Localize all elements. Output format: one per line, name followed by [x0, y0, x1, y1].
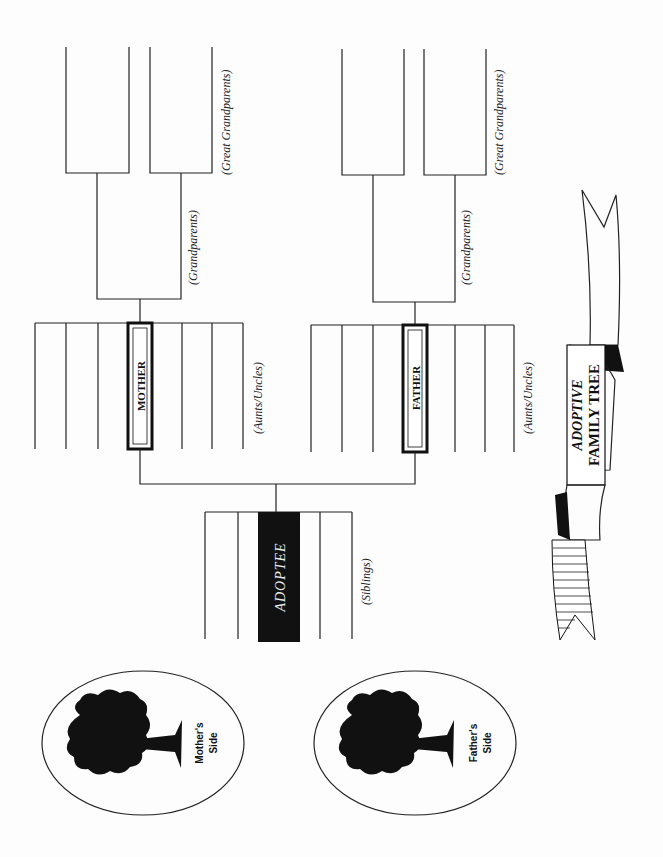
tree-icon	[67, 689, 182, 774]
parents-connector	[140, 449, 415, 484]
grandparents-label-father: (Grandparents)	[459, 210, 473, 285]
adoptee-label: ADOPTEE	[273, 542, 288, 612]
aunts-uncles-label-father: (Aunts/Uncles)	[521, 362, 535, 434]
banner-tail	[552, 540, 595, 640]
mothers-side-emblem: Mother's Side	[42, 671, 244, 815]
aunts-uncles-label-mother: (Aunts/Uncles)	[251, 362, 265, 434]
title-line1: ADOPTIVE	[570, 380, 585, 452]
title-line2: FAMILY TREE	[586, 364, 602, 466]
fathers-side-emblem: Father's Side	[314, 671, 516, 815]
fathers-side-line2: Side	[482, 732, 493, 754]
grandparents-label-mother: (Grandparents)	[186, 210, 200, 285]
mother-label: MOTHER	[135, 360, 147, 411]
father-box: FATHER	[403, 325, 427, 452]
great-grandparents-label-father: (Great Grandparents)	[492, 70, 506, 175]
family-tree-diagram: (Great Grandparents) (Grandparents) (Gre…	[0, 0, 663, 857]
siblings-group: ADOPTEE	[205, 512, 352, 642]
siblings-label: (Siblings)	[359, 558, 373, 605]
mothers-side-line1: Mother's	[194, 722, 205, 764]
fathers-side-line1: Father's	[468, 723, 479, 762]
mothers-side-line2: Side	[208, 732, 219, 754]
great-grandparents-label-mother: (Great Grandparents)	[219, 70, 233, 175]
mother-box: MOTHER	[128, 323, 152, 449]
title-banner: ADOPTIVE FAMILY TREE	[552, 190, 624, 640]
father-label: FATHER	[410, 365, 422, 410]
tree-icon	[339, 689, 454, 774]
